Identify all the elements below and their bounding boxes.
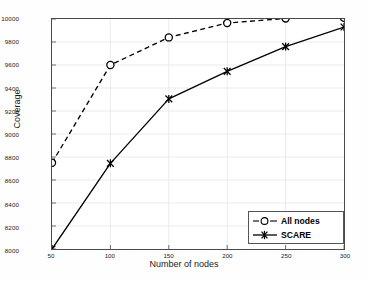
y-tick-label: 8000 (0, 247, 19, 254)
x-tick-label: 100 (90, 252, 130, 259)
figure-canvas: Coverage Number of nodes 800082008400860… (0, 0, 368, 281)
y-tick-label: 8800 (0, 154, 19, 161)
legend-label-scare: SCARE (281, 230, 311, 240)
y-tick-label: 9600 (0, 61, 19, 68)
legend-item-scare[interactable]: SCARE (252, 228, 340, 242)
y-tick-label: 8400 (0, 200, 19, 207)
legend-label-all-nodes: All nodes (281, 216, 320, 226)
x-tick-label: 300 (325, 252, 365, 259)
y-tick-label: 10000 (0, 15, 19, 22)
x-tick-label: 200 (207, 252, 247, 259)
y-tick-label: 9000 (0, 131, 19, 138)
y-tick-label: 9400 (0, 84, 19, 91)
y-tick-label: 9800 (0, 38, 19, 45)
y-tick-label: 9200 (0, 107, 19, 114)
x-axis-title: Number of nodes (0, 259, 368, 269)
y-tick-label: 8200 (0, 223, 19, 230)
legend-item-all-nodes[interactable]: All nodes (252, 214, 340, 228)
y-tick-label: 8600 (0, 177, 19, 184)
x-tick-label: 150 (149, 252, 189, 259)
legend-marker-circle-dashed (252, 215, 278, 227)
legend-marker-star-solid (252, 229, 278, 241)
x-tick-label: 250 (266, 252, 306, 259)
legend-box[interactable]: All nodes SCARE (248, 211, 344, 244)
x-tick-label: 50 (31, 252, 71, 259)
